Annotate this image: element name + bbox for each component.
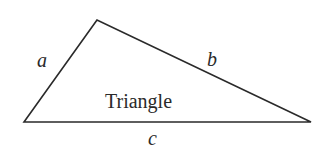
side-a-label: a <box>37 49 47 71</box>
side-b-label: b <box>207 48 217 70</box>
triangle-diagram: a b c Triangle <box>0 0 328 149</box>
side-c-label: c <box>148 127 157 149</box>
triangle-title: Triangle <box>105 90 172 113</box>
